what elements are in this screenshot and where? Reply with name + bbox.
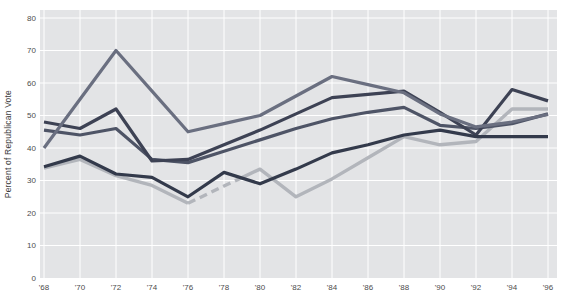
x-tick-label: '74 [147,283,158,292]
x-tick-label: '82 [291,283,302,292]
line-chart-figure: Percent of Republican Vote 0102030405060… [0,0,566,301]
x-tick-label: '84 [327,283,338,292]
y-tick-label: 70 [27,46,36,55]
y-tick-label: 10 [27,241,36,250]
x-tick-label: '96 [543,283,554,292]
x-tick-label: '88 [399,283,410,292]
x-tick-label: '70 [75,283,86,292]
chart-canvas: 01020304050607080'68'70'72'74'76'78'80'8… [0,0,566,301]
x-tick-label: '72 [111,283,122,292]
x-tick-label: '92 [471,283,482,292]
x-tick-label: '90 [435,283,446,292]
x-tick-label: '68 [39,283,50,292]
y-tick-label: 40 [27,144,36,153]
y-tick-label: 20 [27,209,36,218]
x-tick-label: '86 [363,283,374,292]
y-tick-label: 30 [27,176,36,185]
y-tick-label: 50 [27,111,36,120]
y-tick-label: 0 [32,274,37,283]
y-tick-label: 80 [27,14,36,23]
x-tick-label: '94 [507,283,518,292]
y-tick-label: 60 [27,79,36,88]
x-tick-label: '78 [219,283,230,292]
x-tick-label: '80 [255,283,266,292]
x-tick-label: '76 [183,283,194,292]
